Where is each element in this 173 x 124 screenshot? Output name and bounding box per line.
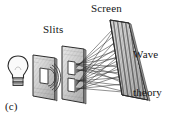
slit-aperture-upper bbox=[68, 61, 75, 75]
single-slit-barrier bbox=[33, 55, 57, 101]
double-slit-barrier bbox=[62, 46, 86, 104]
label-wave-theory-line1: Wave bbox=[133, 48, 162, 61]
label-wave-theory-line2: theory bbox=[133, 86, 162, 99]
double-slit-wave-theory-figure: Slits Screen Wave theory (c) bbox=[0, 0, 173, 124]
single-slit-aperture bbox=[40, 68, 48, 84]
panel-letter-label: (c) bbox=[5, 101, 18, 113]
label-wave-theory: Wave theory bbox=[133, 23, 162, 123]
label-screen: Screen bbox=[91, 3, 122, 15]
slit-aperture-lower bbox=[68, 78, 75, 92]
label-slits: Slits bbox=[43, 24, 63, 36]
light-source-bulb bbox=[8, 56, 28, 86]
